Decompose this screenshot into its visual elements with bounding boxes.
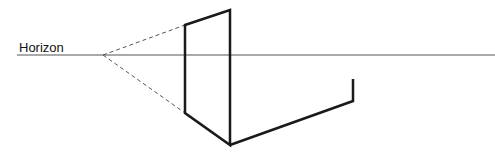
- vanishing-line-bottom: [103, 55, 185, 113]
- ground-line: [230, 79, 353, 145]
- vanishing-line-top: [103, 25, 185, 55]
- perspective-diagram: [0, 0, 495, 157]
- plane-outline: [185, 10, 230, 145]
